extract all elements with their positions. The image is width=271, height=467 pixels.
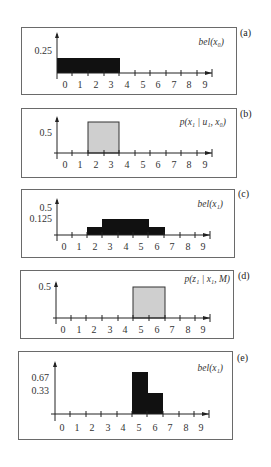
svg-text:3: 3 <box>106 422 111 433</box>
x-tick-labels-e: 0123456789 <box>60 422 204 433</box>
bar-e-5 <box>132 372 148 414</box>
y-arrow-icon <box>53 361 57 367</box>
function-label-e: bel(x₁) <box>198 363 223 374</box>
chart-e: 0123456789 0.67 0.33 bel(x₁) <box>0 0 271 467</box>
svg-text:7: 7 <box>168 422 173 433</box>
svg-text:0: 0 <box>60 422 65 433</box>
x-arrow-icon <box>202 412 209 416</box>
svg-text:1: 1 <box>75 422 80 433</box>
svg-text:9: 9 <box>199 422 204 433</box>
svg-text:8: 8 <box>184 422 189 433</box>
y-tick-e-0: 0.67 <box>32 372 50 383</box>
svg-text:2: 2 <box>90 422 95 433</box>
svg-text:4: 4 <box>121 422 126 433</box>
y-tick-e-1: 0.33 <box>32 385 50 396</box>
bar-e-6 <box>147 393 163 414</box>
svg-text:6: 6 <box>153 422 158 433</box>
svg-text:5: 5 <box>137 422 142 433</box>
